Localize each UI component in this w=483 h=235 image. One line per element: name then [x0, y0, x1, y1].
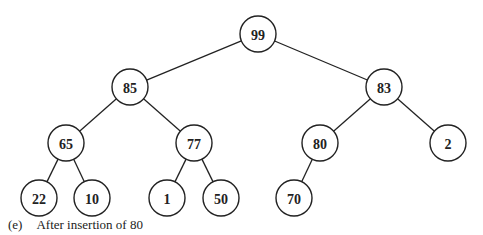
node-value: 80: [313, 137, 327, 152]
tree-node-70: 70: [276, 180, 312, 216]
edge-85-65: [80, 99, 117, 131]
node-value: 22: [32, 192, 46, 207]
heap-tree-diagram: 9985836577802221015070: [0, 0, 483, 235]
node-value: 70: [287, 192, 301, 207]
caption-label: (e): [8, 217, 22, 232]
edge-83-2: [398, 99, 435, 131]
node-value: 2: [445, 137, 452, 152]
tree-node-83: 83: [366, 69, 402, 105]
node-value: 10: [85, 192, 99, 207]
tree-node-85: 85: [112, 69, 148, 105]
edge-65-10: [74, 159, 85, 181]
edge-99-83: [275, 41, 368, 80]
node-value: 77: [187, 137, 201, 152]
tree-nodes: 9985836577802221015070: [21, 16, 466, 216]
edge-77-50: [202, 159, 213, 182]
tree-node-65: 65: [48, 125, 84, 161]
node-value: 85: [123, 81, 137, 96]
edge-65-22: [47, 159, 58, 182]
tree-node-50: 50: [203, 180, 239, 216]
figure-caption: (e)After insertion of 80: [8, 217, 143, 233]
edge-83-80: [334, 99, 371, 131]
node-value: 65: [59, 137, 73, 152]
node-value: 50: [214, 192, 228, 207]
tree-node-1: 1: [149, 180, 185, 216]
tree-node-10: 10: [74, 180, 110, 216]
tree-node-80: 80: [302, 125, 338, 161]
tree-node-99: 99: [240, 16, 276, 52]
edge-80-70: [302, 159, 313, 181]
node-value: 1: [164, 192, 171, 207]
edge-99-85: [147, 41, 242, 80]
tree-node-2: 2: [430, 125, 466, 161]
tree-node-22: 22: [21, 180, 57, 216]
caption-text: After insertion of 80: [36, 217, 143, 232]
node-value: 83: [377, 81, 391, 96]
tree-edges: [47, 41, 435, 182]
tree-node-77: 77: [176, 125, 212, 161]
edge-85-77: [144, 99, 181, 131]
edge-77-1: [175, 159, 186, 182]
node-value: 99: [251, 28, 265, 43]
